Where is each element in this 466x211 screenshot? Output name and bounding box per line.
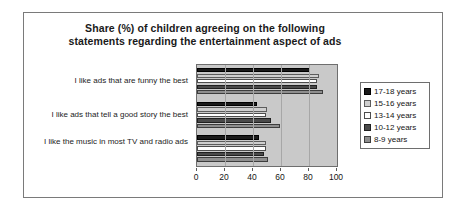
bar (197, 118, 271, 122)
bar (197, 107, 267, 111)
chart-screenshot: Share (%) of children agreeing on the fo… (0, 0, 466, 211)
legend-swatch-icon (364, 136, 371, 143)
bar (197, 141, 266, 145)
bar (197, 90, 323, 94)
legend-swatch-icon (364, 88, 371, 95)
legend-item[interactable]: 13-14 years (364, 109, 426, 121)
axis-tick (280, 168, 281, 171)
plot-area (196, 64, 338, 167)
bar-group (197, 132, 337, 166)
axis-tick-label: 40 (247, 172, 256, 182)
chart-title-line-1: Share (%) of children agreeing on the fo… (40, 22, 370, 35)
chart-title: Share (%) of children agreeing on the fo… (40, 22, 370, 48)
legend-swatch-icon (364, 100, 371, 107)
legend-item[interactable]: 15-16 years (364, 97, 426, 109)
legend-label: 10-12 years (374, 123, 416, 132)
gridline (309, 65, 310, 166)
category-label-story: I like ads that tell a good story the be… (26, 110, 188, 120)
axis-tick (252, 168, 253, 171)
category-label-music: I like the music in most TV and radio ad… (26, 137, 188, 147)
legend-swatch-icon (364, 112, 371, 119)
gridline (225, 65, 226, 166)
gridline (253, 65, 254, 166)
legend-swatch-icon (364, 124, 371, 131)
legend-item[interactable]: 17-18 years (364, 85, 426, 97)
axis-tick-label: 80 (303, 172, 312, 182)
legend-item[interactable]: 10-12 years (364, 121, 426, 133)
category-label-funny: I like ads that are funny the best (26, 76, 188, 86)
axis-tick-label: 60 (275, 172, 284, 182)
bar-group (197, 99, 337, 133)
legend-label: 15-16 years (374, 99, 416, 108)
axis-tick (224, 168, 225, 171)
chart-title-line-2: statements regarding the entertainment a… (40, 35, 370, 48)
bar (197, 74, 319, 78)
bar (197, 102, 257, 106)
chart-legend: 17-18 years15-16 years13-14 years10-12 y… (360, 82, 430, 149)
bar (197, 146, 266, 150)
axis-tick-label: 0 (194, 172, 199, 182)
bar (197, 157, 268, 161)
bar (197, 79, 317, 83)
axis-tick (196, 168, 197, 171)
bar-group (197, 65, 337, 99)
legend-label: 13-14 years (374, 111, 416, 120)
legend-label: 8-9 years (374, 135, 407, 144)
axis-tick-label: 20 (219, 172, 228, 182)
value-axis: 020406080100 (196, 168, 339, 184)
category-axis-labels: I like ads that are funny the best I lik… (28, 64, 192, 167)
axis-tick (336, 168, 337, 171)
axis-tick (308, 168, 309, 171)
legend-label: 17-18 years (374, 87, 416, 96)
bar-groups (197, 65, 337, 166)
bar (197, 85, 317, 89)
axis-tick-label: 100 (329, 172, 343, 182)
bar (197, 152, 264, 156)
bar (197, 135, 259, 139)
legend-item[interactable]: 8-9 years (364, 133, 426, 145)
bar (197, 113, 266, 117)
bar (197, 124, 280, 128)
gridline (281, 65, 282, 166)
